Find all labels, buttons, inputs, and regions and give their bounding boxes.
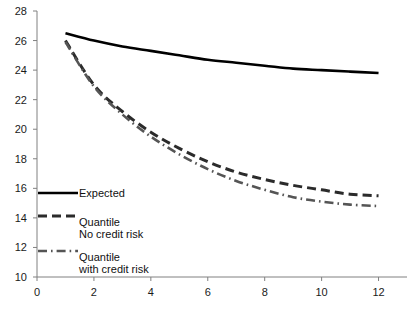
chart-container: 10121416182022242628 024681012 Expected … (0, 0, 413, 312)
y-axis-tick-label: 22 (1, 95, 27, 106)
series-line-0 (65, 33, 378, 73)
x-axis-tick-label: 10 (309, 287, 335, 298)
y-axis-tick-label: 28 (1, 6, 27, 17)
legend-label-quantile-nocredit-line1: Quantile (79, 216, 120, 228)
y-axis-tick-label: 20 (1, 124, 27, 135)
chart-plot-area (0, 0, 413, 312)
axis-ticks-group (33, 11, 379, 281)
legend-label-quantile-withcredit-line2: with credit risk (79, 263, 149, 275)
x-axis-tick-label: 0 (24, 287, 50, 298)
x-axis-tick-label: 8 (252, 287, 278, 298)
y-axis-tick-label: 16 (1, 183, 27, 194)
y-axis-tick-label: 24 (1, 65, 27, 76)
legend-label-expected-line1: Expected (79, 187, 125, 199)
x-axis-tick-label: 6 (195, 287, 221, 298)
y-axis-tick-label: 10 (1, 272, 27, 283)
legend-label-quantile-withcredit-line1: Quantile (79, 251, 120, 263)
x-axis-tick-label: 2 (81, 287, 107, 298)
series-line-2 (65, 42, 378, 206)
y-axis-tick-label: 26 (1, 36, 27, 47)
legend-sample-lines-group (38, 193, 78, 251)
y-axis-tick-label: 12 (1, 242, 27, 253)
y-axis-tick-label: 14 (1, 213, 27, 224)
legend-label-quantile-nocredit-line2: No credit risk (79, 228, 143, 240)
x-axis-tick-label: 4 (138, 287, 164, 298)
series-line-1 (65, 41, 378, 196)
y-axis-tick-label: 18 (1, 154, 27, 165)
x-axis-tick-label: 12 (366, 287, 392, 298)
data-series-group (65, 33, 378, 206)
